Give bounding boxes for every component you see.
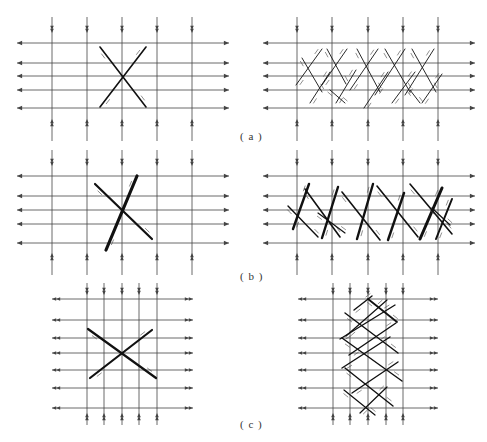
arrowhead-icon [430, 368, 434, 372]
arrowhead-icon [470, 74, 475, 78]
arrowhead-icon [298, 351, 302, 355]
slip-arrow-icon [448, 219, 452, 223]
slip-arrow-icon [384, 53, 387, 58]
panel-a-right [263, 17, 475, 141]
panel-b-right [263, 150, 475, 275]
arrowhead-icon [298, 297, 302, 301]
arrowhead-icon [224, 41, 229, 45]
arrowhead-icon [263, 222, 268, 226]
slip-arrow-icon [354, 352, 359, 355]
slip-arrow-icon [411, 53, 414, 58]
arrowhead-icon [295, 253, 299, 257]
slip-arrow-icon [300, 61, 303, 66]
arrowhead-icon [434, 318, 438, 322]
arrowhead-icon [470, 88, 475, 92]
slip-arrow-icon [394, 372, 399, 375]
slip-arrow-icon [376, 230, 380, 235]
arrowhead-icon [434, 336, 438, 340]
arrowhead-icon [17, 241, 22, 245]
arrowhead-icon [189, 336, 193, 340]
arrowhead-icon [17, 106, 22, 110]
slip-arrow-icon [101, 54, 105, 59]
panel-a-left [17, 17, 229, 141]
arrowhead-icon [120, 29, 124, 33]
arrowhead-icon [295, 119, 299, 123]
slip-arrow-icon [347, 373, 352, 377]
fault-line [354, 296, 372, 310]
slip-arrow-icon [136, 50, 140, 55]
arrowhead-icon [470, 194, 475, 198]
fault-stress-diagram [0, 0, 487, 442]
arrowhead-icon [102, 291, 106, 295]
slip-arrow-icon [342, 197, 346, 202]
arrowhead-icon [155, 119, 159, 123]
arrowhead-icon [348, 291, 352, 295]
arrowhead-icon [56, 406, 60, 410]
slip-arrow-icon [317, 216, 322, 220]
arrowhead-icon [302, 318, 306, 322]
slip-arrow-icon [388, 362, 393, 365]
diagram-panels [17, 17, 475, 425]
arrowhead-icon [295, 29, 299, 33]
arrowhead-icon [366, 253, 370, 257]
slip-arrow-icon [378, 300, 383, 304]
arrowhead-icon [436, 29, 440, 33]
arrowhead-icon [436, 253, 440, 257]
fault-line [392, 72, 415, 103]
arrowhead-icon [224, 222, 229, 226]
arrowhead-icon [185, 406, 189, 410]
arrowhead-icon [434, 297, 438, 301]
slip-arrow-icon [426, 50, 429, 55]
arrowhead-icon [430, 406, 434, 410]
slip-arrow-icon [356, 309, 361, 313]
slip-arrow-icon [391, 344, 396, 348]
arrowhead-icon [52, 386, 56, 390]
slip-arrow-icon [356, 53, 359, 58]
fault-line [296, 49, 322, 85]
arrowhead-icon [348, 413, 352, 417]
fault-line [318, 213, 345, 233]
arrowhead-icon [401, 413, 405, 417]
arrowhead-icon [436, 162, 440, 166]
fault-line [342, 192, 380, 240]
arrowhead-icon [263, 61, 268, 65]
arrowhead-icon [17, 174, 22, 178]
panel-label-c: ( c ) [240, 418, 263, 430]
arrowhead-icon [430, 318, 434, 322]
arrowhead-icon [50, 253, 54, 257]
slip-arrow-icon [414, 227, 418, 232]
slip-arrow-icon [397, 50, 400, 55]
arrowhead-icon [155, 162, 159, 166]
arrowhead-icon [434, 368, 438, 372]
arrowhead-icon [189, 318, 193, 322]
slip-arrow-icon [354, 84, 357, 89]
arrowhead-icon [85, 291, 89, 295]
arrowhead-icon [434, 386, 438, 390]
arrowhead-icon [366, 162, 370, 166]
fault-line [357, 184, 373, 239]
arrowhead-icon [263, 74, 268, 78]
fault-line [405, 49, 434, 95]
arrowhead-icon [434, 406, 438, 410]
arrowhead-icon [50, 29, 54, 33]
arrowhead-icon [52, 336, 56, 340]
arrowhead-icon [137, 413, 141, 417]
arrowhead-icon [50, 119, 54, 123]
fault-line [340, 305, 395, 339]
slip-arrow-icon [106, 99, 110, 104]
arrowhead-icon [190, 119, 194, 123]
arrowhead-icon [302, 406, 306, 410]
arrowhead-icon [330, 119, 334, 123]
arrowhead-icon [185, 297, 189, 301]
slip-arrow-icon [332, 189, 334, 195]
arrowhead-icon [56, 297, 60, 301]
arrowhead-icon [190, 253, 194, 257]
slip-arrow-icon [392, 232, 394, 238]
arrowhead-icon [298, 318, 302, 322]
arrowhead-icon [50, 162, 54, 166]
arrowhead-icon [430, 336, 434, 340]
arrowhead-icon [56, 318, 60, 322]
arrowhead-icon [434, 351, 438, 355]
fault-line [375, 49, 405, 95]
slip-arrow-icon [411, 190, 415, 195]
